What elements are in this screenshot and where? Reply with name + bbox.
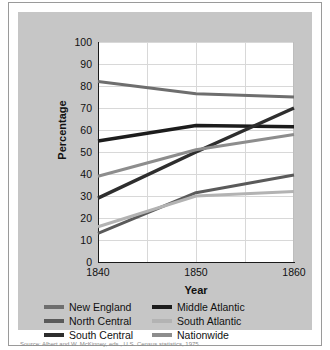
legend-label: North Central xyxy=(69,315,131,327)
x-tick-label: 1850 xyxy=(176,267,216,278)
figure-caption: Source: Albert and W. McKinney, eds., U.… xyxy=(20,341,310,347)
legend-item[interactable]: Nationwide xyxy=(152,329,282,341)
legend-item[interactable]: South Atlantic xyxy=(152,315,282,327)
legend-item[interactable]: South Central xyxy=(44,329,152,341)
x-tick-label: 1860 xyxy=(274,267,314,278)
y-tick-label: 40 xyxy=(66,169,92,179)
y-tick-label: 20 xyxy=(66,213,92,223)
legend-swatch-icon xyxy=(44,319,64,323)
legend-label: Middle Atlantic xyxy=(177,301,245,313)
y-tick-label: 50 xyxy=(66,147,92,157)
y-tick-label: 10 xyxy=(66,235,92,245)
series-lines xyxy=(98,42,294,262)
legend-swatch-icon xyxy=(44,333,64,337)
chart-panel: 1009080706050403020100 184018501860 Perc… xyxy=(18,12,312,330)
x-axis-line xyxy=(98,262,295,263)
y-tick-label: 70 xyxy=(66,103,92,113)
figure-container: 1009080706050403020100 184018501860 Perc… xyxy=(0,0,330,350)
legend-label: South Central xyxy=(69,329,133,341)
legend-swatch-icon xyxy=(152,319,172,323)
legend-label: Nationwide xyxy=(177,329,229,341)
legend-swatch-icon xyxy=(44,305,64,309)
legend-item[interactable]: New England xyxy=(44,301,152,313)
legend-item[interactable]: North Central xyxy=(44,315,152,327)
legend-swatch-icon xyxy=(152,333,172,337)
legend-item[interactable]: Middle Atlantic xyxy=(152,301,282,313)
series-line xyxy=(98,82,294,97)
chart-legend: New EnglandMiddle AtlanticNorth CentralS… xyxy=(44,300,294,342)
y-axis-label: Percentage xyxy=(56,70,68,190)
legend-label: New England xyxy=(69,301,131,313)
y-tick-label: 80 xyxy=(66,81,92,91)
x-axis-label: Year xyxy=(98,284,294,296)
x-tick-label: 1840 xyxy=(78,267,118,278)
y-tick-label: 90 xyxy=(66,59,92,69)
y-tick-label: 30 xyxy=(66,191,92,201)
series-line xyxy=(98,134,294,176)
legend-swatch-icon xyxy=(152,305,172,309)
legend-label: South Atlantic xyxy=(177,315,241,327)
y-tick-label: 100 xyxy=(66,37,92,47)
y-tick-label: 60 xyxy=(66,125,92,135)
series-line xyxy=(98,108,294,198)
